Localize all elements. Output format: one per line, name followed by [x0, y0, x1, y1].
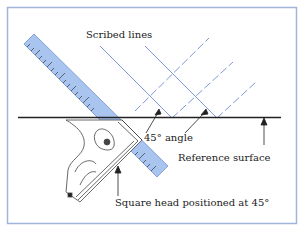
angle-label: 45° angle — [144, 132, 193, 143]
square-head-label: Square head positioned at 45° — [115, 197, 269, 208]
scribed-lines-label: Scribed lines — [86, 29, 152, 40]
diagram-figure: Scribed lines 45° angle Reference surfac… — [0, 0, 306, 233]
reference-surface-label: Reference surface — [178, 152, 271, 163]
